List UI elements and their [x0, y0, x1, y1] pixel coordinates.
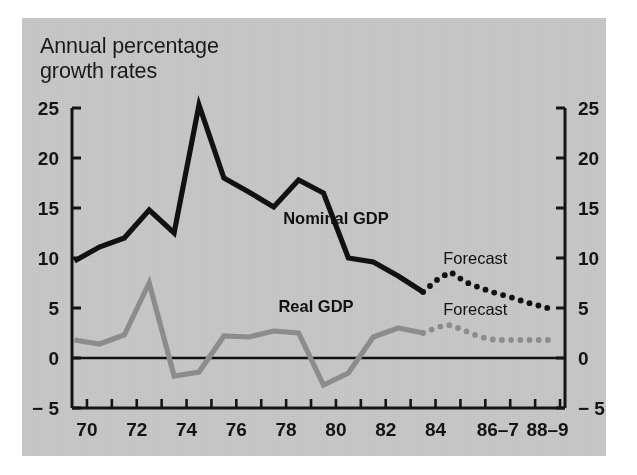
x-tick-label: 88–9: [526, 419, 568, 440]
series-dot: [447, 322, 453, 328]
y-tick-label-left: 15: [38, 198, 60, 219]
x-tick-label: 80: [325, 419, 346, 440]
series-dot: [536, 303, 542, 309]
series-dot: [420, 330, 426, 336]
series-dot: [420, 289, 426, 295]
x-tick-label: 84: [425, 419, 447, 440]
y-tick-label-left: − 5: [32, 398, 59, 419]
y-tick-label-left: 10: [38, 248, 59, 269]
series-annotation: Forecast: [443, 300, 508, 318]
series-dot: [545, 337, 551, 343]
annotations-group: Nominal GDPReal GDPForecastForecast: [278, 209, 507, 318]
series-dot: [509, 295, 515, 301]
y-tick-label-left: 0: [48, 348, 59, 369]
y-tick-label-left: 5: [48, 298, 59, 319]
x-tick-label: 72: [126, 419, 147, 440]
series-dot: [474, 284, 480, 290]
series-dot: [472, 332, 478, 338]
series-dot: [490, 337, 496, 343]
series-dot: [491, 290, 497, 296]
x-tick-label: 82: [375, 419, 396, 440]
y-tick-label-right: 10: [578, 248, 599, 269]
axes-group: − 5− 50055101015152020252570727476788082…: [32, 98, 605, 441]
x-tick-label: 86–7: [477, 419, 519, 440]
series-dot: [464, 329, 470, 335]
series-dot: [499, 337, 505, 343]
y-tick-label-left: 20: [38, 148, 59, 169]
x-tick-label: 78: [276, 419, 297, 440]
x-tick-label: 70: [76, 419, 97, 440]
series-dot: [434, 277, 440, 283]
chart-plot: − 5− 50055101015152020252570727476788082…: [0, 0, 637, 475]
series-line: [75, 283, 424, 385]
series-dot: [458, 276, 464, 282]
series-dot: [527, 300, 533, 306]
y-tick-label-right: 15: [578, 198, 600, 219]
series-dot: [427, 283, 433, 289]
series-dot: [429, 327, 435, 333]
series-dot: [544, 305, 550, 311]
series-annotation: Real GDP: [278, 297, 353, 315]
series-line: [75, 105, 424, 292]
x-tick-label: 76: [226, 419, 247, 440]
series-group: [75, 105, 551, 385]
x-tick-label: 74: [176, 419, 198, 440]
series-dot: [437, 324, 443, 330]
y-tick-label-right: − 5: [578, 398, 605, 419]
series-dot: [508, 337, 514, 343]
series-dot: [500, 292, 506, 298]
series-annotation: Forecast: [443, 249, 508, 267]
y-tick-label-right: 5: [578, 298, 589, 319]
figure-root: Annual percentage growth rates − 5− 5005…: [0, 0, 637, 475]
series-dot: [481, 335, 487, 341]
series-dot: [536, 337, 542, 343]
y-tick-label-right: 20: [578, 148, 599, 169]
series-dot: [455, 325, 461, 331]
series-dot: [517, 337, 523, 343]
y-tick-label-right: 0: [578, 348, 589, 369]
series-dot: [518, 298, 524, 304]
y-tick-label-left: 25: [38, 98, 60, 119]
series-dot: [465, 280, 471, 286]
series-dot: [442, 272, 448, 278]
series-dot: [483, 287, 489, 293]
series-annotation: Nominal GDP: [283, 209, 388, 227]
series-dot: [450, 271, 456, 277]
series-dot: [527, 337, 533, 343]
y-tick-label-right: 25: [578, 98, 600, 119]
